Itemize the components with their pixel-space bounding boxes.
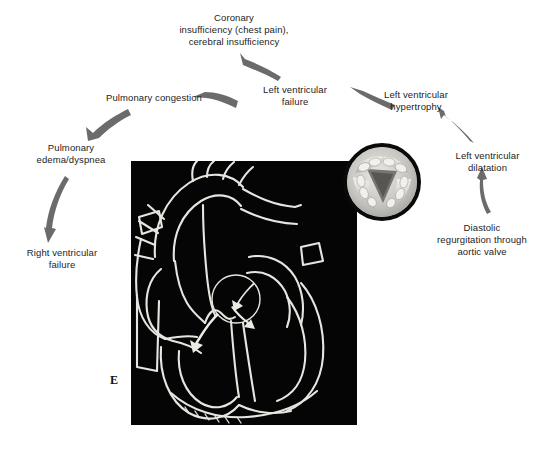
node-left-ventricular-dilatation: Left ventricular dilatation	[439, 150, 536, 174]
aortic-valve-photo	[347, 147, 417, 217]
heart-anatomy-figure	[131, 161, 357, 425]
arrow-edema-to-rvf	[44, 176, 69, 243]
node-pulmonary-congestion: Pulmonary congestion	[97, 92, 211, 104]
arrow-lvf-to-coronary	[240, 53, 281, 81]
aortic-valve-inset-ring	[343, 143, 421, 221]
node-left-ventricular-failure: Left ventricular failure	[243, 84, 347, 108]
node-pulmonary-edema-dyspnea: Pulmonary edema/dyspnea	[23, 142, 119, 166]
node-left-ventricular-hypertrophy: Left ventricular hypertrophy	[364, 89, 468, 113]
node-diastolic-regurgitation: Diastolic regurgitation through aortic v…	[428, 222, 536, 258]
arrow-regurgitation-to-dilatation	[477, 167, 491, 214]
aortic-valve-inset	[343, 143, 421, 221]
arrow-pulmonary-congestion-to-edema	[86, 109, 131, 141]
node-coronary-insufficiency: Coronary insufficiency (chest pain), cer…	[144, 12, 324, 48]
figure-page: Coronary insufficiency (chest pain), cer…	[0, 0, 536, 460]
heart-line-drawing	[131, 161, 357, 425]
panel-letter: E	[110, 373, 118, 388]
node-right-ventricular-failure: Right ventricular failure	[10, 247, 114, 271]
